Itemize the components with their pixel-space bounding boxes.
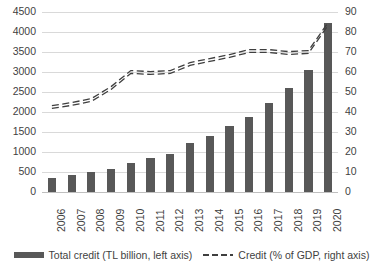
chart-legend: Total credit (TL billion, left axis) Cre… [0, 244, 383, 266]
x-axis-tick-label: 2006 [56, 209, 67, 232]
x-axis-tick-label: 2012 [174, 209, 185, 232]
y-axis-right-tick: 10 [345, 166, 379, 177]
y-axis-left-tick: 4500 [2, 6, 36, 17]
y-axis-right-tick: 70 [345, 46, 379, 57]
x-axis-tick-label: 2010 [135, 209, 146, 232]
y-axis-right-tick: 60 [345, 66, 379, 77]
x-axis-tick-label: 2019 [312, 209, 323, 232]
y-axis-right-tick: 80 [345, 26, 379, 37]
y-axis-left-tick: 3500 [2, 46, 36, 57]
gridline [42, 192, 338, 193]
line-series [42, 12, 338, 192]
y-axis-right-tick: 0 [345, 186, 379, 197]
legend-label-credit-gdp: Credit (% of GDP, right axis) [238, 249, 369, 261]
y-axis-left-tick: 1500 [2, 126, 36, 137]
legend-label-total-credit: Total credit (TL billion, left axis) [49, 249, 193, 261]
y-axis-left-tick: 2500 [2, 86, 36, 97]
x-axis-tick-label: 2016 [253, 209, 264, 232]
x-axis-tick-label: 2008 [95, 209, 106, 232]
dashed-line-swatch-icon [203, 251, 233, 259]
y-axis-left-tick: 1000 [2, 146, 36, 157]
x-axis-tick-label: 2011 [155, 209, 166, 232]
x-axis-tick-label: 2014 [214, 209, 225, 232]
plot-area [42, 12, 338, 192]
y-axis-right-tick: 50 [345, 86, 379, 97]
y-axis-right-tick: 90 [345, 6, 379, 17]
y-axis-left-tick: 3000 [2, 66, 36, 77]
y-axis-left-tick: 500 [2, 166, 36, 177]
x-axis-tick-label: 2007 [76, 209, 87, 232]
legend-entry-credit-gdp: Credit (% of GDP, right axis) [203, 249, 369, 261]
credit-chart: 450040003500300025002000150010005000 908… [0, 0, 383, 271]
y-axis-right-tick: 30 [345, 126, 379, 137]
y-axis-left-tick: 4000 [2, 26, 36, 37]
x-axis-tick-label: 2013 [194, 209, 205, 232]
y-axis-left-tick: 2000 [2, 106, 36, 117]
y-axis-left-tick: 0 [2, 186, 36, 197]
x-axis: 2006200720082009201020112012201320142015… [42, 194, 338, 238]
x-axis-tick-label: 2015 [234, 209, 245, 232]
x-axis-tick-label: 2009 [115, 209, 126, 232]
x-axis-tick-label: 2017 [273, 209, 284, 232]
bar-swatch-icon [14, 252, 44, 258]
y-axis-right-tick: 40 [345, 106, 379, 117]
legend-entry-total-credit: Total credit (TL billion, left axis) [14, 249, 193, 261]
y-axis-right-tick: 20 [345, 146, 379, 157]
x-axis-tick-label: 2018 [293, 209, 304, 232]
x-axis-tick-label: 2020 [332, 209, 343, 232]
